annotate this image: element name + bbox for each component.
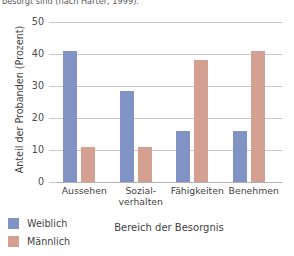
y-tick-label-30: 30 bbox=[20, 81, 44, 91]
y-tick-mark-40 bbox=[49, 54, 56, 55]
legend-label: Weiblich bbox=[27, 218, 67, 229]
y-tick-label-20: 20 bbox=[20, 113, 44, 123]
bar-männlich-2 bbox=[194, 60, 208, 182]
y-axis-title: Anteil der Probanden (Prozent) bbox=[14, 20, 25, 180]
y-tick-mark-50 bbox=[49, 22, 56, 23]
x-axis-category-labels: AussehenSozial-verhaltenFähigkeitenBeneh… bbox=[56, 186, 282, 214]
bar-weiblich-3 bbox=[233, 131, 247, 182]
y-tick-label-40: 40 bbox=[20, 49, 44, 59]
legend-label: Männlich bbox=[27, 236, 70, 247]
legend-item-männlich[interactable]: Männlich bbox=[8, 234, 108, 249]
y-tick-mark-10 bbox=[49, 150, 56, 151]
figure-caption-clipped: besorgt sind (nach Harter, 1999). bbox=[0, 0, 294, 6]
y-tick-label-10: 10 bbox=[20, 145, 44, 155]
bar-weiblich-2 bbox=[176, 131, 190, 182]
bar-chart-figure: besorgt sind (nach Harter, 1999). Anteil… bbox=[0, 0, 294, 256]
y-tick-mark-0 bbox=[49, 182, 56, 183]
x-category-label-line: Sozial- bbox=[113, 186, 170, 197]
bar-groups bbox=[56, 22, 282, 182]
bar-group bbox=[169, 22, 226, 182]
legend-swatch-icon bbox=[8, 236, 19, 247]
bar-group bbox=[226, 22, 283, 182]
bar-männlich-1 bbox=[138, 147, 152, 182]
x-category-label-line: Fähigkeiten bbox=[169, 186, 226, 197]
y-tick-label-0: 0 bbox=[20, 177, 44, 187]
y-tick-mark-20 bbox=[49, 118, 56, 119]
x-category-label-line: Benehmen bbox=[226, 186, 283, 197]
x-category-label-2: Fähigkeiten bbox=[169, 186, 226, 197]
y-tick-mark-30 bbox=[49, 86, 56, 87]
bar-group bbox=[56, 22, 113, 182]
plot-area: 01020304050 bbox=[56, 22, 282, 182]
chart-legend: WeiblichMännlich bbox=[8, 216, 108, 252]
y-tick-label-50: 50 bbox=[20, 17, 44, 27]
legend-swatch-icon bbox=[8, 218, 19, 229]
gridline-0 bbox=[56, 182, 282, 183]
x-category-label-0: Aussehen bbox=[56, 186, 113, 197]
figure-caption-text: besorgt sind (nach Harter, 1999). bbox=[0, 0, 294, 6]
x-category-label-line: verhalten bbox=[113, 197, 170, 208]
bar-männlich-0 bbox=[81, 147, 95, 182]
x-category-label-1: Sozial-verhalten bbox=[113, 186, 170, 207]
bar-weiblich-1 bbox=[120, 91, 134, 182]
x-category-label-3: Benehmen bbox=[226, 186, 283, 197]
legend-item-weiblich[interactable]: Weiblich bbox=[8, 216, 108, 231]
bar-männlich-3 bbox=[251, 51, 265, 182]
bar-weiblich-0 bbox=[63, 51, 77, 182]
x-category-label-line: Aussehen bbox=[56, 186, 113, 197]
bar-group bbox=[113, 22, 170, 182]
